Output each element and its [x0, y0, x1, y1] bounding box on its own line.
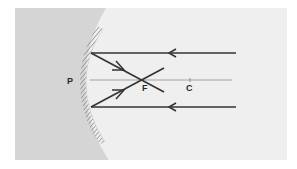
concave-mirror-diagram: P F C — [0, 0, 297, 169]
focus-label: F — [142, 83, 148, 93]
pole-label: P — [67, 76, 73, 86]
center-label: C — [186, 83, 193, 93]
